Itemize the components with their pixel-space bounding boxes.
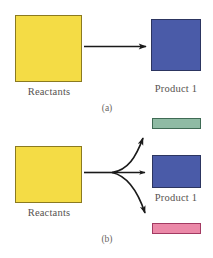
- reactants-label-panel-a: Reactants: [9, 86, 89, 98]
- reaction-scheme-figure: Reactants Product 1 (a) Reactants Produc…: [0, 0, 213, 258]
- reactants-label-panel-b: Reactants: [9, 207, 89, 219]
- product-1-label-panel-b: Product 1: [140, 192, 212, 204]
- reactants-box-panel-a: [15, 15, 82, 82]
- product-1-label-panel-a: Product 1: [140, 83, 212, 95]
- reactants-box-panel-b: [15, 146, 82, 203]
- product-pink-bar-panel-b: [152, 223, 201, 234]
- product-green-bar-panel-b: [152, 118, 201, 129]
- product-1-box-panel-b: [152, 155, 201, 188]
- panel-label-a: (a): [85, 103, 129, 114]
- product-1-box-panel-a: [151, 19, 201, 71]
- panel-label-b: (b): [85, 234, 129, 245]
- reaction-arrow-branch-green-panel-b: [112, 138, 143, 173]
